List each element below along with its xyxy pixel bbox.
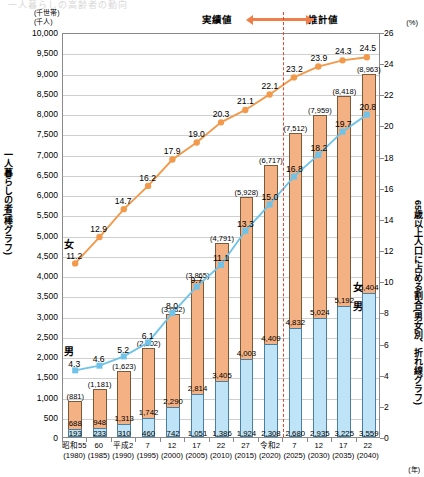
line-label-male: 6.1 — [137, 331, 159, 341]
line-label-male: 18.2 — [308, 143, 330, 153]
y-left-tick-label: 10,000 — [12, 28, 58, 38]
line-label-male: 16.8 — [283, 164, 305, 174]
y-left-tick-label: 9,000 — [12, 69, 58, 79]
actual-arrow-head — [246, 15, 253, 25]
y-left-tick-label: 9,500 — [12, 48, 58, 58]
line-marker-female[interactable] — [242, 107, 248, 113]
y-right-tick-label: 2 — [384, 402, 404, 412]
x-tick — [86, 438, 87, 442]
x-tick — [258, 438, 259, 442]
line-label-female: 20.3 — [210, 109, 232, 119]
x-tick — [160, 438, 161, 442]
line-marker-female[interactable] — [194, 139, 200, 145]
figure-title: 一人暮らしの高齢者の動向 — [8, 0, 128, 11]
y-right-tick — [380, 189, 384, 190]
y-right-tick-label: 24 — [384, 59, 404, 69]
line-label-male: 4.6 — [88, 354, 110, 364]
y-right-tick — [380, 345, 384, 346]
line-marker-female[interactable] — [266, 91, 272, 97]
left-axis-unit-line2: (千人) — [34, 17, 60, 26]
y-right-tick-label: 12 — [384, 246, 404, 256]
y-right-tick — [380, 158, 384, 159]
series-tag-male-line: 男 — [64, 343, 74, 358]
line-label-female: 12.9 — [88, 224, 110, 234]
line-marker-female[interactable] — [315, 63, 321, 69]
x-tick — [233, 438, 234, 442]
line-marker-male[interactable] — [364, 112, 370, 118]
line-label-female: 16.2 — [137, 173, 159, 183]
y-right-tick — [380, 313, 384, 314]
y-right-tick — [380, 251, 384, 252]
series-tag-male-bar: 男 — [353, 298, 363, 313]
y-left-tick-label: 500 — [12, 413, 58, 423]
y-left-tick-label: 5,500 — [12, 210, 58, 220]
x-tick — [282, 438, 283, 442]
line-label-female: 24.3 — [332, 46, 354, 56]
chart-figure: 一人暮らしの高齢者の動向 (千世帯) (千人) (%) (年) 実績値 推計値 … — [0, 0, 424, 477]
line-label-male: 13.3 — [234, 219, 256, 229]
line-label-female: 11.2 — [63, 251, 85, 261]
line-marker-female[interactable] — [145, 183, 151, 189]
y-left-tick-label: 3,000 — [12, 312, 58, 322]
y-right-tick-label: 14 — [384, 215, 404, 225]
y-right-tick — [380, 438, 384, 439]
right-axis-unit: (%) — [406, 18, 418, 27]
line-marker-female[interactable] — [364, 54, 370, 60]
line-marker-male[interactable] — [267, 202, 273, 208]
line-marker-male[interactable] — [340, 129, 346, 135]
line-label-male: 15.0 — [259, 192, 281, 202]
line-label-female: 23.9 — [308, 53, 330, 63]
line-female — [75, 57, 367, 263]
y-right-tick — [380, 407, 384, 408]
x-tick — [307, 438, 308, 442]
y-right-tick — [380, 126, 384, 127]
line-label-female: 24.5 — [357, 43, 379, 53]
left-axis-unit: (千世帯) (千人) — [34, 8, 60, 26]
line-label-female: 21.1 — [234, 96, 256, 106]
line-marker-female[interactable] — [218, 119, 224, 125]
y-right-tick-label: 8 — [384, 308, 404, 318]
y-right-tick — [380, 282, 384, 283]
line-marker-female[interactable] — [96, 234, 102, 240]
line-marker-male[interactable] — [291, 174, 297, 180]
right-axis-title: 65歳以上人口に占める割合(男女別、折れ線グラフ) — [412, 200, 423, 405]
line-label-female: 17.9 — [161, 146, 183, 156]
line-label-male: 20.8 — [357, 102, 379, 112]
line-label-female: 14.7 — [112, 196, 134, 206]
y-left-tick-label: 3,500 — [12, 291, 58, 301]
y-left-tick-label: 6,000 — [12, 190, 58, 200]
y-left-tick-label: 4,500 — [12, 251, 58, 261]
line-marker-female[interactable] — [339, 57, 345, 63]
y-right-tick-label: 26 — [384, 28, 404, 38]
line-label-male: 5.2 — [112, 345, 134, 355]
y-right-tick-label: 10 — [384, 277, 404, 287]
y-right-tick — [380, 95, 384, 96]
y-right-tick-label: 16 — [384, 184, 404, 194]
y-right-tick — [380, 376, 384, 377]
x-tick — [209, 438, 210, 442]
x-tick-era: 22 — [345, 441, 391, 451]
line-label-female: 19.0 — [186, 129, 208, 139]
y-left-tick-label: 8,500 — [12, 89, 58, 99]
series-tag-female-line: 女 — [64, 236, 74, 251]
x-tick — [184, 438, 185, 442]
line-marker-female[interactable] — [291, 74, 297, 80]
line-label-male: 11.1 — [210, 253, 232, 263]
x-tick-label: 22(2040) — [345, 441, 391, 460]
line-label-male: 8.0 — [161, 301, 183, 311]
line-marker-female[interactable] — [169, 156, 175, 162]
x-axis-unit: (年) — [408, 464, 420, 474]
line-marker-female[interactable] — [121, 206, 127, 212]
line-label-male: 9.7 — [186, 275, 208, 285]
y-right-tick-label: 22 — [384, 90, 404, 100]
x-tick — [111, 438, 112, 442]
period-banner: 実績値 推計値 — [200, 12, 380, 28]
line-marker-male[interactable] — [315, 152, 321, 158]
y-right-tick — [380, 33, 384, 34]
series-tag-female-bar: 女 — [353, 279, 363, 294]
y-right-tick — [380, 220, 384, 221]
x-tick — [62, 438, 63, 442]
y-left-tick-label: 7,500 — [12, 129, 58, 139]
line-marker-female[interactable] — [72, 260, 78, 266]
y-right-tick — [380, 64, 384, 65]
